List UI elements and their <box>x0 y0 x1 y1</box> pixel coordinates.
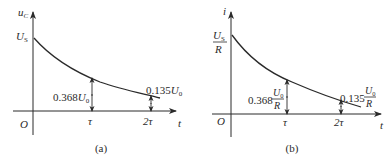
svg-text:R: R <box>214 43 222 55</box>
svg-text:U0: U0 <box>273 87 283 99</box>
y-start-fraction: US R <box>213 29 227 55</box>
tick-tau-label: τ <box>88 115 93 127</box>
caption-a: (a) <box>95 142 108 155</box>
svg-text:R: R <box>365 98 372 109</box>
annotation-2tau: 0.135 U0 R <box>340 85 376 109</box>
svg-text:0.368: 0.368 <box>248 94 273 106</box>
svg-text:0.135: 0.135 <box>340 92 365 104</box>
y-axis-label: uC <box>18 6 29 20</box>
tick-2tau-label: 2τ <box>143 115 154 127</box>
x-axis-label: t <box>178 117 182 129</box>
y-start-label: US <box>16 30 28 44</box>
svg-text:U0: U0 <box>365 85 375 97</box>
panel-b: i US R O t τ 2τ 0.368 U0 R 0.135 U0 R (b… <box>212 5 384 155</box>
tick-tau-label: τ <box>283 116 288 128</box>
svg-text:R: R <box>273 100 280 111</box>
decay-curve <box>34 38 160 98</box>
rc-decay-diagram: uC US O t τ 2τ 0.368U0 0.135U0 (a) i <box>0 0 390 160</box>
y-axis-label: i <box>223 5 226 17</box>
annotation-2tau: 0.135U0 <box>146 84 183 98</box>
tick-2tau-label: 2τ <box>334 116 345 128</box>
origin-label: O <box>217 115 225 127</box>
x-axis-label: t <box>380 119 384 131</box>
panel-a: uC US O t τ 2τ 0.368U0 0.135U0 (a) <box>13 6 183 155</box>
svg-text:US: US <box>213 29 225 43</box>
annotation-tau: 0.368 U0 R <box>248 87 284 111</box>
origin-label: O <box>20 118 28 130</box>
caption-b: (b) <box>286 142 299 155</box>
annotation-tau: 0.368U0 <box>53 91 90 105</box>
